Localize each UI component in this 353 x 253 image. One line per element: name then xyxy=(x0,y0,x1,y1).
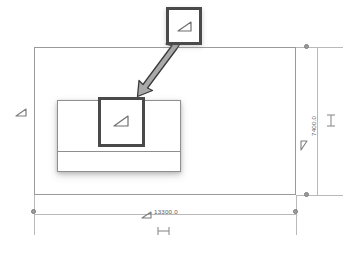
horizontal-dimension-label: 13300.0 xyxy=(154,208,178,215)
dimension-endpoint-dot xyxy=(31,209,36,214)
triangle-marker-icon xyxy=(177,21,192,32)
dimension-extension-line-left xyxy=(34,195,35,235)
dimension-endpoint-dot xyxy=(304,192,309,197)
triangle-marker-icon xyxy=(113,115,129,127)
dimension-endpoint-dot xyxy=(293,209,298,214)
diagram-canvas: 13300.0 7400.0 xyxy=(0,0,353,253)
triangle-marker-icon xyxy=(300,140,308,151)
dimension-extension-line-right xyxy=(296,195,297,235)
triangle-marker-icon xyxy=(141,211,152,219)
dimension-extent-icon xyxy=(156,226,171,236)
zoom-callout-box[interactable] xyxy=(166,7,202,45)
dimension-endpoint-dot xyxy=(304,44,309,49)
dimension-extension-line-top xyxy=(296,47,343,48)
building-interior-divider xyxy=(58,151,180,152)
selected-element-square[interactable] xyxy=(98,97,145,147)
vertical-dimension-label: 7400.0 xyxy=(310,116,317,136)
dimension-extent-icon xyxy=(326,113,336,128)
dimension-extension-line-bottom xyxy=(296,195,343,196)
triangle-marker-icon xyxy=(15,108,27,117)
vertical-dimension-line xyxy=(317,47,318,195)
